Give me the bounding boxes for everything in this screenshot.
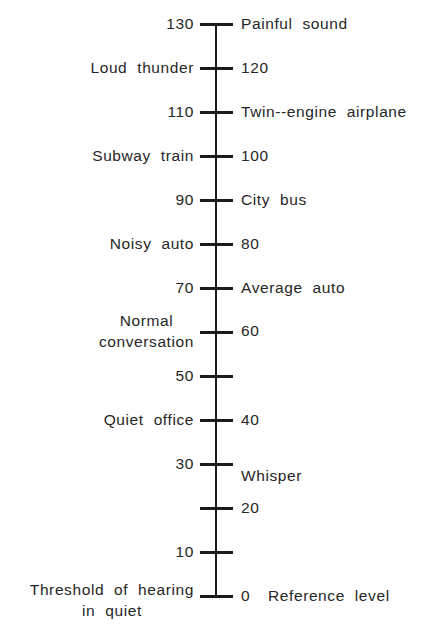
scale-axis-line (215, 23, 217, 598)
label-subway-train: Subway train (92, 147, 194, 165)
tick-50 (200, 375, 233, 378)
tick-20 (200, 507, 233, 510)
tick-10 (200, 551, 233, 554)
label-threshold-line1: Threshold of hearing (30, 579, 194, 600)
label-reference-level: Reference level (268, 587, 390, 605)
tick-80 (200, 243, 233, 246)
tick-40 (200, 419, 233, 422)
tick-110 (200, 111, 233, 114)
tick-120 (200, 67, 233, 70)
tick-label-100: 100 (241, 147, 269, 165)
label-normal-conversation-line2: conversation (99, 331, 194, 352)
label-city-bus: City bus (241, 191, 307, 209)
tick-label-30: 30 (176, 455, 194, 473)
tick-100 (200, 155, 233, 158)
tick-label-110: 110 (167, 103, 194, 121)
tick-30 (200, 463, 233, 466)
label-normal-conversation: Normal conversation (99, 310, 194, 352)
label-noisy-auto: Noisy auto (110, 235, 194, 253)
tick-label-20: 20 (241, 499, 259, 517)
label-threshold-of-hearing: Threshold of hearing in quiet (30, 579, 194, 621)
tick-label-80: 80 (241, 235, 259, 253)
tick-90 (200, 199, 233, 202)
label-whisper: Whisper (241, 467, 302, 485)
tick-label-60: 60 (241, 322, 259, 340)
tick-label-0: 0 (241, 587, 250, 605)
label-loud-thunder: Loud thunder (90, 59, 194, 77)
tick-label-70: 70 (176, 279, 194, 297)
tick-60 (200, 331, 233, 334)
label-twin-engine-airplane: Twin--engine airplane (241, 103, 407, 121)
tick-label-130: 130 (166, 15, 194, 33)
label-threshold-line2: in quiet (30, 600, 194, 621)
label-quiet-office: Quiet office (104, 411, 194, 429)
tick-130 (200, 23, 233, 26)
tick-label-50: 50 (176, 367, 194, 385)
tick-70 (200, 287, 233, 290)
tick-label-10: 10 (176, 543, 194, 561)
label-painful-sound: Painful sound (241, 15, 348, 33)
tick-label-120: 120 (241, 59, 269, 77)
tick-label-40: 40 (241, 411, 259, 429)
label-normal-conversation-line1: Normal (99, 310, 194, 331)
label-average-auto: Average auto (241, 279, 345, 297)
tick-0 (200, 595, 233, 598)
decibel-scale-diagram: 130 Painful sound Loud thunder 120 110 T… (0, 0, 427, 630)
tick-label-90: 90 (176, 191, 194, 209)
